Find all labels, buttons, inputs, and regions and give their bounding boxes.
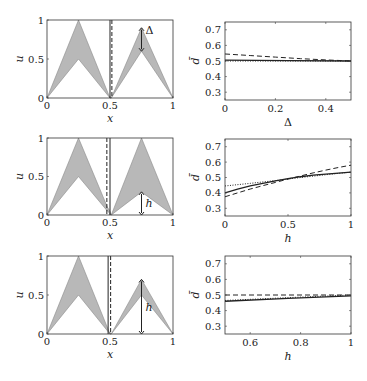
row2-left-ylabel: u — [13, 173, 26, 180]
row3-right-series-solid — [225, 296, 351, 301]
row3-left-annotation-label: h — [146, 301, 153, 314]
row1-right-ytick-label: 0.4 — [205, 71, 221, 82]
row2-left-annotation-label: h — [146, 197, 153, 210]
row1-right-ytick-label: 0.3 — [205, 87, 221, 98]
row1-left-xtick-label: 1 — [170, 100, 176, 111]
row2-right-xtick-label: 0.5 — [280, 219, 296, 230]
row3-right-xlabel: h — [284, 350, 291, 363]
row2-right-ytick-label: 0.5 — [205, 172, 221, 183]
row3-left-xtick-label: 0 — [44, 336, 50, 347]
row2-right-ytick-label: 0.6 — [205, 157, 221, 168]
row1-right-ytick-label: 0.7 — [205, 24, 221, 35]
row3-left-ytick-label: 0.5 — [28, 290, 44, 301]
row1-right-ytick-label: 0.6 — [205, 40, 221, 51]
row2-left-xlabel: x — [107, 229, 114, 242]
row3-left-ytick-label: 0 — [38, 329, 44, 340]
row1-right-ytick-label: 0.5 — [205, 56, 221, 67]
row3-left-shaded-region — [47, 256, 173, 334]
row3-right-ytick-label: 0.3 — [205, 321, 221, 332]
row2-left-ytick-label: 1 — [38, 133, 44, 144]
row2-right-series-dashed — [225, 165, 351, 197]
row1-left-xtick-label: 0 — [44, 100, 50, 111]
row2-right-ytick-label: 0.7 — [205, 141, 221, 152]
row2-left-xtick-label: 0.5 — [102, 217, 118, 228]
row2-left-xtick-label: 0 — [44, 217, 50, 228]
row1-left-ylabel: u — [13, 55, 26, 62]
row3-right-ytick-label: 0.6 — [205, 274, 221, 285]
row1-right-xtick-label: 0 — [222, 103, 228, 114]
row3-right-xtick-label: 0.6 — [242, 337, 258, 348]
row3-left-xtick-label: 0.5 — [102, 336, 118, 347]
row3-right-ytick-label: 0.4 — [205, 305, 221, 316]
row2-right-ytick-label: 0.4 — [205, 187, 221, 198]
row2-left-ytick-label: 0.5 — [28, 171, 44, 182]
row2-right-series-dotted — [225, 172, 351, 186]
row2-right-ylabel: d̄ — [189, 172, 202, 181]
row3-right-series-dotted — [225, 295, 351, 300]
row2-left-xtick-label: 1 — [170, 217, 176, 228]
row1-left-ytick-label: 0.5 — [28, 54, 44, 65]
row1-right-ylabel: d̄ — [189, 56, 202, 65]
row3-left-ylabel: u — [13, 291, 26, 298]
row1-left-ytick-label: 0 — [38, 93, 44, 104]
row2-left-ytick-label: 0 — [38, 210, 44, 221]
row3-right-xtick-label: 1 — [348, 337, 354, 348]
row3-right-ylabel: d̄ — [189, 290, 202, 299]
row3-left-ytick-label: 1 — [38, 251, 44, 262]
row2-right-series-solid — [225, 172, 351, 193]
row1-right-xlabel: Δ — [284, 116, 292, 129]
row1-right-xtick-label: 0.2 — [267, 103, 283, 114]
row1-left-xlabel: x — [107, 112, 114, 125]
row3-right-ytick-label: 0.7 — [205, 258, 221, 269]
row3-right-ytick-label: 0.5 — [205, 290, 221, 301]
row2-right-ytick-label: 0.3 — [205, 203, 221, 214]
row3-left-xtick-label: 1 — [170, 336, 176, 347]
row2-right-xtick-label: 0 — [222, 219, 228, 230]
row3-right-xtick-label: 0.8 — [293, 337, 309, 348]
row2-right-axes-frame — [225, 139, 351, 216]
row1-left-ytick-label: 1 — [38, 15, 44, 26]
row1-right-xtick-label: 0.4 — [318, 103, 334, 114]
row3-left-xlabel: x — [107, 348, 114, 361]
row2-right-xtick-label: 1 — [348, 219, 354, 230]
row1-left-xtick-label: 0.5 — [102, 100, 118, 111]
row2-right-xlabel: h — [284, 232, 291, 245]
figure: Δ00.5100.51xu00.20.40.30.40.50.60.7Δd̄h0… — [0, 0, 367, 381]
row1-left-annotation-label: Δ — [146, 24, 154, 37]
